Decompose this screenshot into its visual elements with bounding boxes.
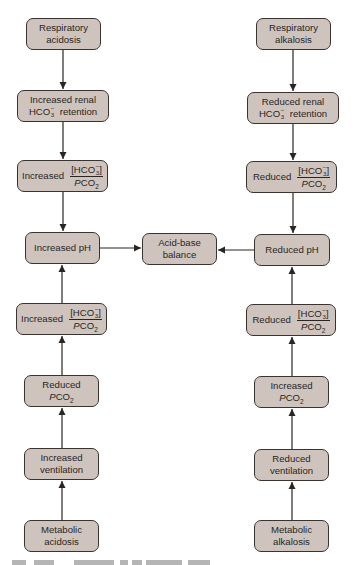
node-metabolic-acidosis: Metabolic acidosis bbox=[24, 520, 99, 552]
pco2-text: PCO2 bbox=[49, 391, 73, 403]
denominator: PCO2 bbox=[301, 321, 325, 332]
node-text: Reduced renal bbox=[262, 96, 324, 108]
hco3-pco2-fraction: [HCO−3] PCO2 bbox=[297, 165, 330, 189]
node-text: Increased bbox=[40, 452, 82, 464]
hco3-text: HCO bbox=[29, 106, 50, 117]
node-text: Increased bbox=[270, 380, 312, 392]
node-reduced-renal-retention: Reduced renal HCO−3 retention bbox=[247, 92, 339, 124]
denominator: PCO2 bbox=[74, 177, 98, 188]
den-text: CO bbox=[308, 178, 322, 189]
hco3-pco2-fraction: [HCO−3] PCO2 bbox=[69, 307, 102, 331]
node-text: Reduced bbox=[272, 453, 310, 465]
node-reduced-ventilation: Reduced ventilation bbox=[254, 449, 329, 481]
node-text: Respiratory bbox=[269, 22, 318, 34]
num-text: [HCO bbox=[71, 164, 95, 175]
node-increased-ratio-bottom: Increased [HCO−3] PCO2 bbox=[16, 303, 107, 335]
subscript: 2 bbox=[94, 326, 98, 333]
num-text: [HCO bbox=[70, 307, 94, 318]
co-text: CO bbox=[56, 391, 70, 402]
node-text: Increased pH bbox=[34, 242, 91, 254]
hco3-pco2-fraction: [HCO−3] PCO2 bbox=[297, 308, 330, 332]
co-text: CO bbox=[286, 392, 300, 403]
node-text: acidosis bbox=[44, 536, 79, 548]
num-text: [HCO bbox=[298, 165, 322, 176]
numerator: [HCO−3] bbox=[69, 307, 102, 320]
node-increased-pco2: Increased PCO2 bbox=[254, 376, 329, 408]
subscript: 2 bbox=[322, 184, 326, 191]
node-respiratory-acidosis: Respiratory acidosis bbox=[26, 18, 101, 50]
numerator: [HCO−3] bbox=[297, 165, 330, 178]
node-increased-ph: Increased pH bbox=[25, 232, 100, 264]
retention-text: retention bbox=[60, 106, 97, 117]
caption-fragment bbox=[12, 557, 312, 565]
cropped-caption bbox=[12, 557, 312, 565]
node-acid-base-balance: Acid-base balance bbox=[142, 233, 217, 265]
den-text: CO bbox=[80, 320, 94, 331]
denominator: PCO2 bbox=[301, 178, 325, 189]
denominator: PCO2 bbox=[73, 320, 97, 331]
node-reduced-ratio-top: Reduced [HCO−3] PCO2 bbox=[246, 161, 337, 193]
node-increased-ratio-top: Increased [HCO−3] PCO2 bbox=[17, 160, 108, 192]
ratio-label: Reduced bbox=[253, 171, 291, 183]
numerator: [HCO−3] bbox=[297, 308, 330, 321]
node-respiratory-alkalosis: Respiratory alkalosis bbox=[256, 18, 331, 50]
bracket: ] bbox=[326, 308, 329, 319]
node-text: HCO−3 retention bbox=[259, 108, 327, 120]
node-reduced-ratio-bottom: Reduced [HCO−3] PCO2 bbox=[246, 304, 336, 336]
node-text: Respiratory bbox=[39, 22, 88, 34]
num-text: [HCO bbox=[298, 308, 322, 319]
retention-text: retention bbox=[290, 108, 327, 119]
subscript: 3 bbox=[281, 114, 285, 120]
bracket: ] bbox=[98, 307, 101, 318]
node-increased-ventilation: Increased ventilation bbox=[24, 448, 99, 480]
node-text: Acid-base bbox=[158, 237, 201, 249]
node-text: Increased renal bbox=[30, 94, 96, 106]
node-text: ventilation bbox=[270, 465, 313, 477]
subscript: 2 bbox=[322, 327, 326, 334]
ion-notation: −3 bbox=[281, 108, 285, 120]
subscript: 2 bbox=[300, 398, 304, 405]
node-metabolic-alkalosis: Metabolic alkalosis bbox=[254, 520, 329, 552]
pco2-text: PCO2 bbox=[279, 392, 303, 404]
numerator: [HCO−3] bbox=[70, 164, 103, 177]
node-text: ventilation bbox=[40, 464, 83, 476]
ratio-label: Increased bbox=[21, 313, 63, 325]
node-text: Metabolic bbox=[41, 524, 82, 536]
hco3-pco2-fraction: [HCO−3] PCO2 bbox=[70, 164, 103, 188]
bracket: ] bbox=[99, 164, 102, 175]
node-reduced-ph: Reduced pH bbox=[254, 234, 330, 266]
ratio-label: Reduced bbox=[252, 314, 290, 326]
subscript: 2 bbox=[95, 183, 99, 190]
node-text: acidosis bbox=[46, 34, 81, 46]
subscript: 3 bbox=[51, 112, 55, 118]
node-text: Metabolic bbox=[271, 524, 312, 536]
bracket: ] bbox=[326, 165, 329, 176]
hco3-text: HCO bbox=[259, 108, 280, 119]
node-text: alkalosis bbox=[273, 536, 310, 548]
node-reduced-pco2: Reduced PCO2 bbox=[24, 375, 99, 407]
node-text: HCO−3 retention bbox=[29, 106, 97, 118]
subscript: 2 bbox=[70, 397, 74, 404]
node-text: alkalosis bbox=[275, 34, 312, 46]
ratio-label: Increased bbox=[22, 170, 64, 182]
node-increased-renal-retention: Increased renal HCO−3 retention bbox=[17, 90, 109, 122]
node-text: balance bbox=[163, 249, 197, 261]
den-text: CO bbox=[81, 177, 95, 188]
node-text: Reduced pH bbox=[265, 244, 318, 256]
node-text: Reduced bbox=[42, 379, 80, 391]
ion-notation: −3 bbox=[51, 106, 55, 118]
den-text: CO bbox=[307, 321, 321, 332]
